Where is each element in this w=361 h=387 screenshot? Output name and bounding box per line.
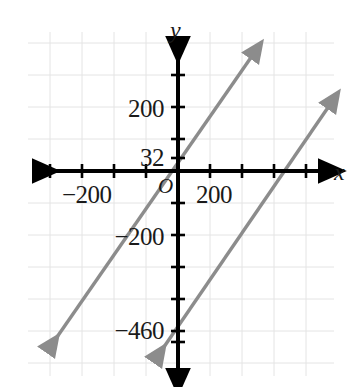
y-tick-label-200: 200 (92, 96, 164, 121)
y-tick-label-32: 32 (92, 145, 164, 170)
y-axis-label: y (170, 18, 181, 42)
x-axis-label: x (334, 160, 345, 184)
y-tick-label-negative-200: −200 (72, 224, 164, 249)
graph-canvas (0, 0, 361, 387)
x-tick-label-negative-200: −200 (62, 182, 112, 207)
coordinate-plane-figure: 200 32 −200 −460 −200 200 O y x (0, 0, 361, 387)
origin-label: O (158, 176, 173, 197)
y-tick-label-negative-460: −460 (62, 318, 164, 343)
x-tick-label-200: 200 (196, 182, 232, 207)
